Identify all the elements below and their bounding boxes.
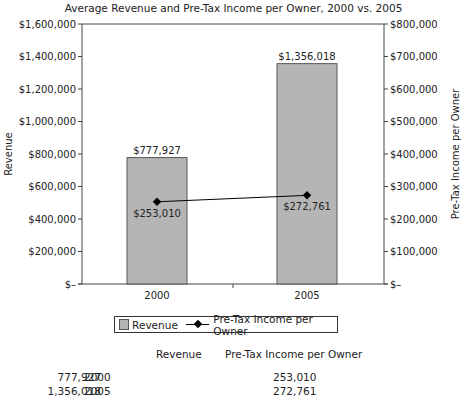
table-header-revenue: Revenue	[156, 348, 202, 360]
table-row-revenue: 777,927	[58, 371, 101, 383]
table-row-income: 253,010	[273, 371, 316, 383]
data-table: Revenue Pre-Tax Income per Owner 2000 77…	[0, 0, 467, 407]
table-row-income: 272,761	[273, 385, 316, 397]
table-row-revenue: 1,356,018	[48, 385, 101, 397]
table-header-income: Pre-Tax Income per Owner	[225, 348, 362, 360]
